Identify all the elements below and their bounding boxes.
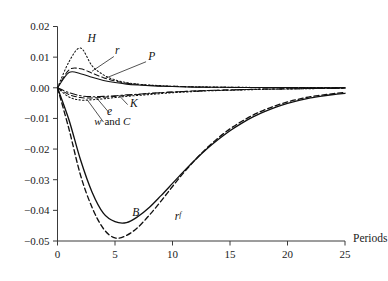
annotation-w-and-c: w and C bbox=[94, 115, 131, 127]
y-tick-label: 0.01 bbox=[30, 51, 49, 63]
y-tick-label: −0.01 bbox=[24, 112, 49, 124]
x-tick-label: 10 bbox=[167, 248, 179, 260]
x-tick-label: 5 bbox=[112, 248, 118, 260]
x-axis-title-label: Periods bbox=[353, 232, 388, 244]
y-tick-label: −0.04 bbox=[24, 204, 50, 216]
y-tick-label: 0.02 bbox=[30, 20, 49, 32]
chart-background bbox=[0, 0, 388, 281]
y-tick-label: −0.05 bbox=[24, 235, 50, 247]
impulse-response-chart: 0.020.010.00−0.01−0.02−0.03−0.04−0.05 05… bbox=[0, 0, 388, 281]
x-tick-label: 25 bbox=[340, 248, 352, 260]
y-tick-label: −0.03 bbox=[24, 174, 50, 186]
annotation-p: P bbox=[147, 50, 155, 62]
x-axis-title: Periods bbox=[353, 232, 388, 244]
y-tick-label: 0.00 bbox=[30, 82, 50, 94]
chart-canvas: 0.020.010.00−0.01−0.02−0.03−0.04−0.05 05… bbox=[0, 0, 388, 281]
x-tick-label: 15 bbox=[225, 248, 237, 260]
y-tick-label: −0.02 bbox=[24, 143, 49, 155]
annotation-k: K bbox=[129, 97, 139, 109]
x-tick-label: 0 bbox=[55, 248, 61, 260]
annotation-h: H bbox=[86, 32, 96, 44]
annotation-b: B bbox=[132, 206, 139, 218]
annotation-r: r bbox=[115, 44, 120, 56]
x-tick-label: 20 bbox=[282, 248, 294, 260]
